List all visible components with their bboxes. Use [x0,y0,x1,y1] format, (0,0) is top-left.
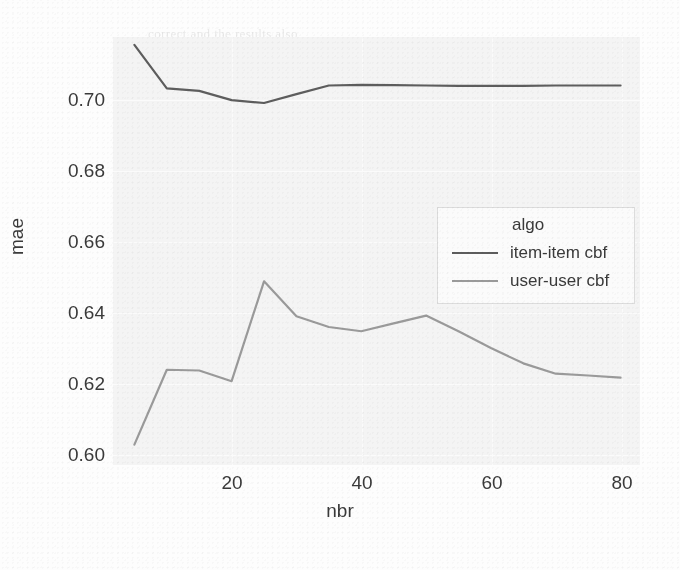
y-axis-ticks: 0.70 0.68 0.66 0.64 0.62 0.60 [0,0,105,570]
y-tick-label: 0.70 [8,89,105,111]
figure-canvas: correct and the results also matrix, and… [0,0,680,570]
x-tick-label: 80 [611,472,632,494]
plot-area: algo item-item cbf user-user cbf [113,37,640,465]
legend-title: algo [512,215,634,235]
line-item-item-cbf [134,45,620,103]
x-tick-label: 20 [221,472,242,494]
y-tick-label: 0.60 [8,444,105,466]
legend-entry-label: user-user cbf [510,271,609,291]
y-tick-label: 0.68 [8,160,105,182]
x-tick-label: 40 [351,472,372,494]
y-axis-title: mae [6,218,28,255]
legend-entry-user-user-cbf[interactable]: user-user cbf [438,267,634,295]
legend-swatch-icon [452,252,498,254]
y-tick-label: 0.64 [8,302,105,324]
legend-swatch-icon [452,280,498,282]
y-tick-label: 0.62 [8,373,105,395]
legend-entry-label: item-item cbf [510,243,607,263]
line-user-user-cbf [134,281,620,444]
x-axis-title: nbr [0,500,680,522]
legend-entry-item-item-cbf[interactable]: item-item cbf [438,239,634,267]
legend-box[interactable]: algo item-item cbf user-user cbf [437,207,635,304]
x-tick-label: 60 [481,472,502,494]
